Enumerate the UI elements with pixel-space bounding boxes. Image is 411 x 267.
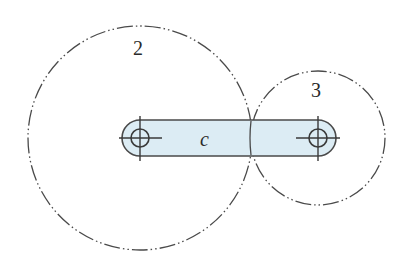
gear-3-label: 3 xyxy=(311,79,321,101)
arm-label: c xyxy=(200,128,209,150)
gear-2-label: 2 xyxy=(133,37,143,59)
gear-train-diagram: 2 3 c xyxy=(0,0,411,267)
